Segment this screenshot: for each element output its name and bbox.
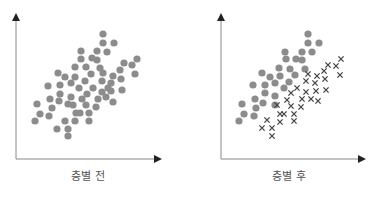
dot-point [271,92,278,99]
dot-point [82,101,89,108]
dot-point [109,72,116,79]
cross-point [299,96,304,101]
dot-point [64,125,71,132]
cross-point [288,90,293,95]
dot-point [82,63,89,70]
dot-point [131,70,138,77]
cross-point [322,76,327,81]
dot-point [99,30,106,37]
dot-point [98,77,105,84]
dot-point [259,99,266,106]
dot-point [103,48,110,55]
dot-point [285,78,292,85]
dot-point [77,47,84,54]
dot-point [250,112,257,119]
cross-point [305,71,310,76]
dot-point [308,48,315,55]
cross-point [303,78,308,83]
dot-point [304,30,311,37]
dot-point [271,79,278,86]
dot-point [120,59,127,66]
dot-point [235,117,242,124]
dot-point [48,104,55,111]
dot-point [99,39,106,46]
cross-point [291,118,296,123]
dot-point [99,69,106,76]
dot-point [275,64,282,71]
dot-point [110,39,117,46]
dot-point [61,73,68,80]
dot-point [76,109,83,116]
dot-point [240,110,247,117]
dot-point [116,66,123,73]
cross-point [298,104,303,109]
panel-after: 층별 후 [221,15,364,183]
dot-point [46,95,53,102]
dot-point [56,81,63,88]
dot-point [64,132,71,139]
dot-point [94,95,101,102]
dot-point [249,81,256,88]
cross-point [303,89,308,94]
dot-point [61,117,68,124]
dot-point [280,84,287,91]
dot-point [118,86,125,93]
cross-point [288,103,293,108]
dot-point [77,55,84,62]
cross-point [323,87,328,92]
dot-point [102,93,109,100]
stratification-diagram: 층별 전 층별 후 [0,0,374,198]
dot-point [71,117,78,124]
dot-point [261,81,268,88]
dot-point [54,69,61,76]
points-after [235,30,343,138]
dot-point [291,71,298,78]
cross-point [294,85,299,90]
dot-point [93,56,100,63]
cross-point [313,88,318,93]
dot-point [81,77,88,84]
dot-point [298,48,305,55]
dot-point [67,93,74,100]
cross-point [337,72,342,77]
dot-point [107,87,114,94]
cross-point [321,68,326,73]
dot-point [133,55,140,62]
dot-point [53,125,60,132]
dot-point [85,117,92,124]
dot-point [55,97,62,104]
dot-point [71,73,78,80]
cross-point [264,117,269,122]
cross-point [312,80,317,85]
cross-point [291,111,296,116]
cross-point [338,56,343,61]
dot-point [276,72,283,79]
dot-point [44,82,51,89]
cross-point [315,98,320,103]
dot-point [85,109,92,116]
dot-point [89,84,96,91]
dot-point [292,55,299,62]
cross-point [325,62,330,67]
cross-point [281,111,286,116]
dot-point [45,112,52,119]
dot-point [258,69,265,76]
dot-point [251,95,258,102]
dot-point [281,48,288,55]
dot-point [128,61,135,68]
dot-point [75,84,82,91]
dot-point [109,98,116,105]
dot-point [56,90,63,97]
dot-point [315,39,322,46]
cross-point [314,73,319,78]
dot-point [78,95,85,102]
dot-point [261,89,268,96]
dot-point [36,110,43,117]
dot-point [301,65,308,72]
dot-point [252,104,259,111]
dot-point [69,101,76,108]
cross-point [259,125,264,130]
cross-point [284,97,289,102]
cross-point [308,96,313,101]
panel-label-after: 층별 후 [272,170,306,183]
